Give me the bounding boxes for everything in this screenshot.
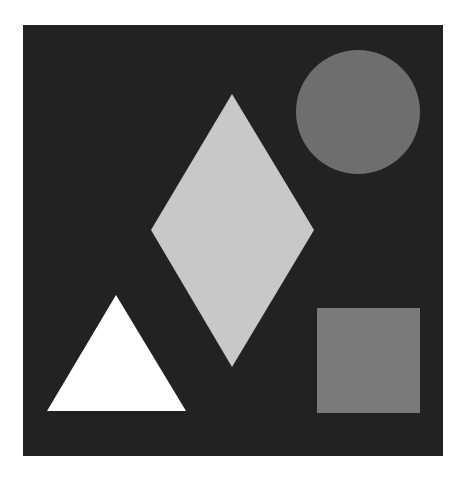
gray-circle (296, 50, 420, 174)
shapes-scene (0, 0, 461, 481)
diagram-canvas (0, 0, 461, 481)
gray-square (317, 308, 420, 413)
